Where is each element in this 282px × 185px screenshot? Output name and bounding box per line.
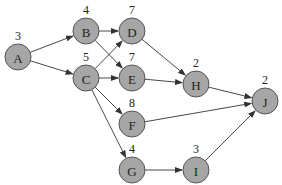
node-label: E xyxy=(128,72,136,87)
edge-E-H xyxy=(145,79,182,82)
node-I: I3 xyxy=(183,142,209,183)
node-F: F8 xyxy=(119,96,145,137)
node-weight: 7 xyxy=(129,3,135,17)
node-E: E7 xyxy=(119,50,145,91)
edge-B-E xyxy=(95,40,122,68)
node-A: A3 xyxy=(5,29,31,70)
edge-D-H xyxy=(142,39,185,75)
node-weight: 4 xyxy=(83,3,89,17)
node-J: J2 xyxy=(252,73,278,114)
node-label: H xyxy=(191,78,200,93)
node-label: B xyxy=(82,25,91,40)
node-label: G xyxy=(127,164,136,179)
edge-C-D xyxy=(95,41,122,69)
edge-A-C xyxy=(30,61,72,74)
node-label: A xyxy=(13,51,23,66)
node-weight: 3 xyxy=(193,142,199,156)
node-weight: 5 xyxy=(83,50,89,64)
node-G: G4 xyxy=(119,142,145,183)
edge-C-F xyxy=(95,87,122,114)
node-label: F xyxy=(128,118,135,133)
node-B: B4 xyxy=(73,3,99,44)
node-H: H2 xyxy=(183,56,209,97)
nodes: A3B4C5D7E7F8G4H2I3J2 xyxy=(5,3,278,183)
node-label: D xyxy=(127,25,136,40)
edge-H-J xyxy=(209,87,252,98)
edges xyxy=(30,31,255,170)
node-weight: 7 xyxy=(129,50,135,64)
node-label: I xyxy=(194,164,198,179)
edge-A-B xyxy=(30,36,73,52)
graph-diagram: A3B4C5D7E7F8G4H2I3J2 xyxy=(0,0,282,185)
node-weight: 3 xyxy=(15,29,21,43)
node-D: D7 xyxy=(119,3,145,44)
node-label: C xyxy=(82,72,91,87)
edge-I-J xyxy=(205,111,255,161)
node-weight: 4 xyxy=(129,142,135,156)
node-weight: 2 xyxy=(262,73,268,87)
edge-F-J xyxy=(145,103,251,121)
node-weight: 2 xyxy=(193,56,199,70)
node-C: C5 xyxy=(73,50,99,91)
node-label: J xyxy=(262,95,267,110)
node-weight: 8 xyxy=(129,96,135,110)
